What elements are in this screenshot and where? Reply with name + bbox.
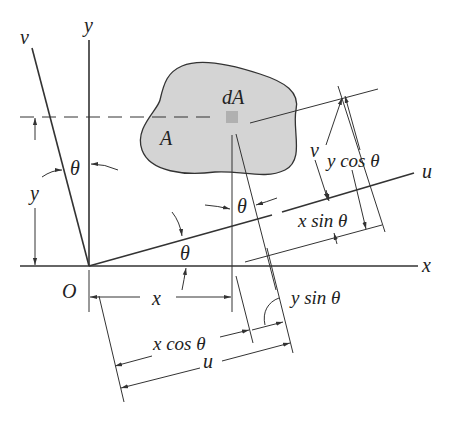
label-area: A [158,127,173,149]
u-axis-outer [282,173,414,212]
theta-arc-x [182,268,186,290]
theta-arc-u [172,212,182,236]
u-dim-left [121,368,200,388]
theta-arc-dA-right [256,198,277,205]
label-axis-y: y [82,14,93,37]
label-axis-x: x [421,254,431,276]
label-x-cos: x cos θ [152,333,206,354]
label-theta-vy: θ [70,157,80,179]
theta-arc-dA-left [205,205,230,209]
label-x-sin: x sin θ [297,210,347,231]
xsin-arrow-bottom [334,233,337,244]
label-y-cos: y cos θ [325,150,380,171]
label-dim-y: y [28,182,39,205]
label-dim-x: x [151,287,161,309]
u-ext-left [99,296,124,402]
label-theta-dA: θ [237,195,247,217]
area-a-shape [140,62,296,174]
u-ext-right [267,248,293,353]
u-dim-right [222,343,290,361]
ycos-dim-upper [345,96,360,150]
label-dim-u: u [203,350,213,372]
ycos-dim-lower [352,170,366,229]
label-theta-ux: θ [180,242,190,264]
v-dim-upper [326,98,342,145]
element-da [226,111,238,123]
ysin-dim [252,322,283,330]
v-dim-top-extension [348,89,378,97]
rotated-axes-diagram: y v u x O A dA θ θ θ y x v y cos θ x sin… [0,0,456,427]
theta-arc-vy-right [91,164,118,170]
ysin-leader [264,298,279,325]
label-axis-u: u [422,160,432,182]
label-dim-v: v [310,139,319,161]
label-axis-v: v [20,26,29,48]
label-origin: O [62,280,76,302]
xcos-dim-left [115,356,152,366]
theta-arc-vy [42,170,62,177]
label-element: dA [222,86,245,108]
label-y-sin: y sin θ [289,287,340,308]
xcos-dim-right [220,330,249,337]
v-axis [32,48,89,266]
